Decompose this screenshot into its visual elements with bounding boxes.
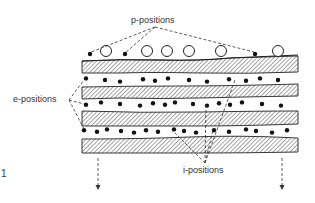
hatched-layer-2 bbox=[82, 84, 298, 99]
figure-number: 1 bbox=[1, 169, 7, 179]
interlayer-dot bbox=[260, 102, 264, 106]
interlayer-dot bbox=[244, 79, 248, 83]
interlayer-dot bbox=[254, 129, 258, 133]
arrow-down-icon bbox=[280, 185, 285, 190]
hatched-layers bbox=[82, 56, 298, 153]
interlayer-dot bbox=[144, 128, 148, 132]
interlayer-dot bbox=[227, 77, 231, 81]
interlayer-dot bbox=[132, 130, 136, 134]
interlayer-dot bbox=[173, 100, 177, 104]
interlayer-dot bbox=[118, 79, 122, 83]
interlayer-dot bbox=[105, 127, 109, 131]
open-circle-particle bbox=[162, 46, 173, 57]
interlayer-dot bbox=[84, 76, 88, 80]
interlayer-dot bbox=[138, 103, 142, 107]
open-circle-particle bbox=[184, 46, 195, 57]
interlayer-dot bbox=[217, 101, 221, 105]
interlayer-dot bbox=[228, 103, 232, 107]
open-circle-particle bbox=[142, 46, 153, 57]
interlayer-dot bbox=[276, 78, 280, 82]
interlayer-dot bbox=[182, 129, 186, 133]
interlayer-dot bbox=[279, 103, 283, 107]
open-circle-particle bbox=[273, 46, 284, 57]
interlayer-dot bbox=[163, 103, 167, 107]
hatched-layer-4 bbox=[82, 136, 298, 153]
arrowheads bbox=[96, 185, 285, 190]
interlayer-dot bbox=[166, 76, 170, 80]
interlayer-dot bbox=[258, 76, 262, 80]
interlayer-dot bbox=[151, 101, 155, 105]
interlayer-dot bbox=[95, 130, 99, 134]
interlayer-dot bbox=[103, 78, 107, 82]
interlayer-dot bbox=[191, 102, 195, 106]
interlayer-dot bbox=[187, 78, 191, 82]
arrow-down-icon bbox=[96, 185, 101, 190]
interlayer-dot bbox=[141, 77, 145, 81]
filled-dot-particle bbox=[123, 52, 127, 56]
p-positions-label: p-positions bbox=[131, 16, 175, 25]
interlayer-dot bbox=[205, 103, 209, 107]
interlayer-dot bbox=[270, 130, 274, 134]
interlayer-dot bbox=[285, 128, 289, 132]
open-circle-particle bbox=[101, 46, 112, 57]
interlayer-dot bbox=[205, 79, 209, 83]
interlayer-dot bbox=[227, 130, 231, 134]
hatched-layer-3 bbox=[82, 111, 298, 126]
interlayer-dot bbox=[84, 103, 88, 107]
filled-dot-particle bbox=[88, 52, 92, 56]
i-positions-label: i-positions bbox=[183, 166, 224, 175]
e-positions-label: e-positions bbox=[13, 95, 57, 104]
interlayer-dot bbox=[119, 129, 123, 133]
interlayer-dot bbox=[99, 100, 103, 104]
interlayer-dot bbox=[153, 79, 157, 83]
hatched-layer-1 bbox=[82, 56, 298, 73]
interlayer-dot bbox=[156, 130, 160, 134]
interlayer-dot bbox=[240, 100, 244, 104]
interlayer-dot bbox=[118, 102, 122, 106]
open-circle-particle bbox=[216, 46, 227, 57]
interlayer-dot bbox=[194, 130, 198, 134]
filled-dot-particle bbox=[253, 52, 257, 56]
interlayer-dot bbox=[244, 127, 248, 131]
interlayer-dot bbox=[172, 127, 176, 131]
